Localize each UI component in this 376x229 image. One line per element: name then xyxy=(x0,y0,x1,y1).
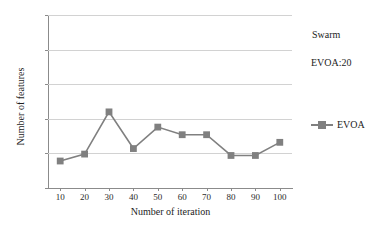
data-point-marker xyxy=(252,152,259,159)
data-point-marker xyxy=(203,131,210,138)
data-point-marker xyxy=(179,131,186,138)
legend-square-marker-icon xyxy=(311,120,333,130)
data-series-evoa xyxy=(48,15,293,189)
data-point-marker xyxy=(57,158,64,165)
data-point-marker xyxy=(228,152,235,159)
data-point-marker xyxy=(154,124,161,131)
data-point-marker xyxy=(106,108,113,115)
data-point-marker xyxy=(130,145,137,152)
x-tick-label-100: 100 xyxy=(263,192,297,202)
y-axis-title: Number of features xyxy=(15,37,26,177)
chart-figure: 0510152025102030405060708090100 Number o… xyxy=(0,0,376,229)
annotation-evoa-value: EVOA:20 xyxy=(311,57,352,68)
x-axis-title: Number of iteration xyxy=(48,206,293,217)
data-point-marker xyxy=(276,139,283,146)
series-line-evoa xyxy=(60,112,280,161)
chart-legend: EVOA xyxy=(311,119,365,130)
annotation-swarm: Swarm xyxy=(312,29,340,40)
data-point-marker xyxy=(81,151,88,158)
legend-label-evoa: EVOA xyxy=(337,119,365,130)
